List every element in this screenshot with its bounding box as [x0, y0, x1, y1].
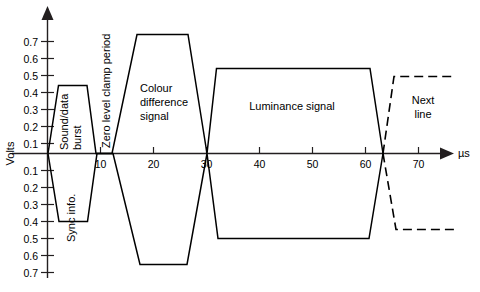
y-tick-label-0.1: 0.1	[23, 138, 38, 150]
y-tick-label-neg-0.3: 0.3	[23, 199, 38, 211]
y-tick-label-0.6: 0.6	[23, 53, 38, 65]
y-tick-label-neg-0.5: 0.5	[23, 233, 38, 245]
x-tick-label-60: 60	[360, 158, 372, 170]
y-tick-label-0.4: 0.4	[23, 87, 38, 99]
label-sound-data-burst-line1: Sound/data	[58, 93, 70, 150]
x-tick-label-70: 70	[413, 158, 425, 170]
y-tick-label-0.2: 0.2	[23, 121, 38, 133]
y-axis-tick-labels-lower: 0.1 0.2 0.3 0.4 0.5 0.6 0.7	[23, 165, 38, 279]
x-axis-unit-label: µs	[458, 147, 470, 159]
waveform-canvas: 0.7 0.6 0.5 0.4 0.3 0.2 0.1 0.1 0.2 0.3 …	[0, 0, 480, 292]
y-axis	[42, 6, 54, 278]
label-zero-level-clamp-period: Zero level clamp period	[100, 34, 112, 148]
label-sound-data-burst-line2: burst	[71, 126, 83, 150]
label-next-line: Next line	[412, 94, 435, 120]
x-axis-arrowhead	[440, 148, 454, 160]
x-tick-label-50: 50	[307, 158, 319, 170]
label-luminance-signal: Luminance signal	[249, 100, 335, 112]
label-colour-difference-line1: Colour	[140, 82, 173, 94]
label-next-line-2: line	[414, 108, 431, 120]
label-colour-difference-line2: difference	[140, 96, 188, 108]
y-tick-label-neg-0.1: 0.1	[23, 165, 38, 177]
label-sync-info: Sync info.	[65, 194, 77, 242]
y-tick-label-neg-0.2: 0.2	[23, 182, 38, 194]
y-axis-arrowhead	[42, 6, 54, 20]
y-axis-title: Volts	[4, 141, 16, 165]
waveform-diagram: 0.7 0.6 0.5 0.4 0.3 0.2 0.1 0.1 0.2 0.3 …	[0, 0, 480, 292]
y-tick-label-neg-0.4: 0.4	[23, 216, 38, 228]
y-tick-label-neg-0.6: 0.6	[23, 250, 38, 262]
y-axis-tick-labels-upper: 0.7 0.6 0.5 0.4 0.3 0.2 0.1	[23, 36, 38, 150]
y-tick-label-neg-0.7: 0.7	[23, 267, 38, 279]
label-colour-difference-signal: Colour difference signal	[140, 82, 188, 122]
trace-positive-envelope	[48, 35, 383, 154]
x-axis-tick-labels: 10 20 30 40 50 60 70	[95, 158, 425, 170]
y-tick-label-0.7: 0.7	[23, 36, 38, 48]
label-colour-difference-line3: signal	[140, 110, 169, 122]
label-next-line-1: Next	[412, 94, 435, 106]
x-tick-label-40: 40	[254, 158, 266, 170]
y-tick-label-0.3: 0.3	[23, 104, 38, 116]
trace-negative-envelope	[48, 154, 383, 265]
y-tick-label-0.5: 0.5	[23, 70, 38, 82]
label-sound-data-burst: Sound/data burst	[58, 93, 83, 150]
x-tick-label-20: 20	[148, 158, 160, 170]
